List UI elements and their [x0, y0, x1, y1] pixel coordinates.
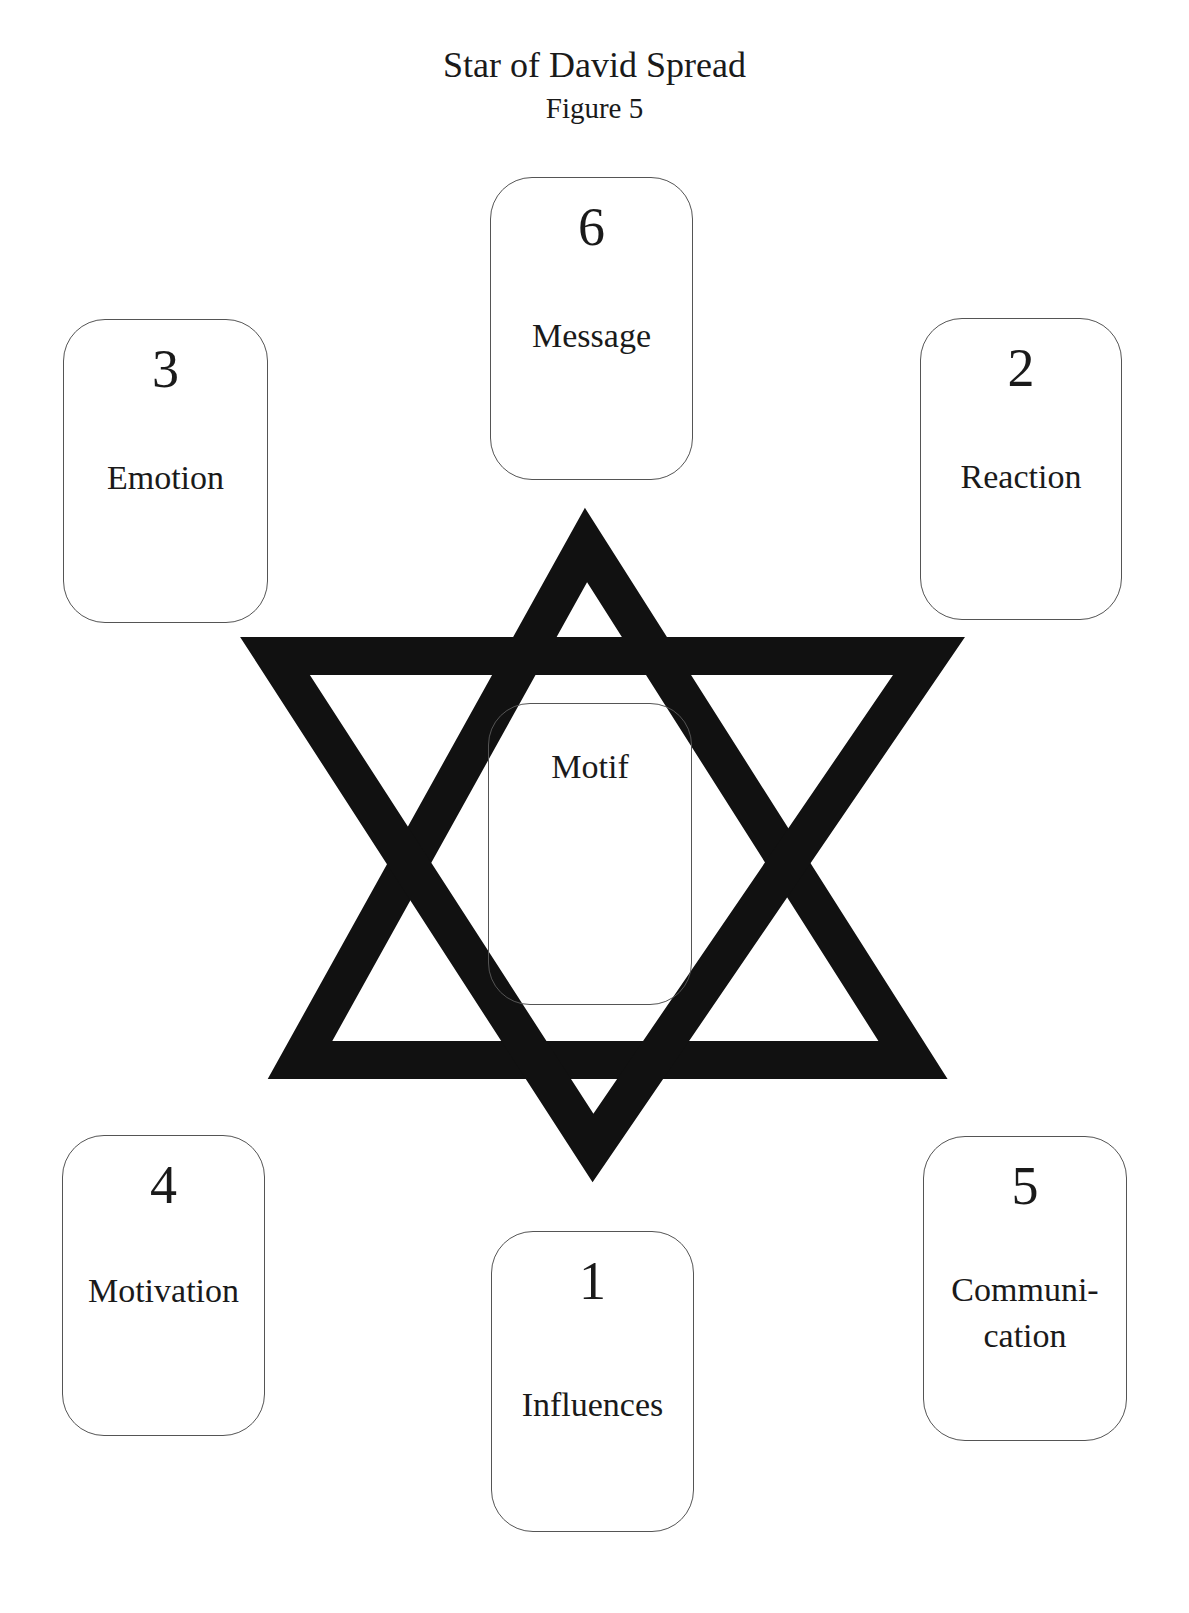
card-position-6: 6 Message: [490, 177, 693, 480]
card-number: 4: [63, 1158, 264, 1212]
card-number: 1: [492, 1254, 693, 1308]
card-number: 5: [924, 1159, 1126, 1213]
card-label: Influences: [492, 1382, 693, 1428]
card-label: Emotion: [64, 455, 267, 501]
card-label: Motivation: [63, 1268, 264, 1314]
card-label-line1: Communi-: [924, 1267, 1126, 1313]
card-number: 2: [921, 341, 1121, 395]
card-label-line2: cation: [924, 1313, 1126, 1359]
card-position-1: 1 Influences: [491, 1231, 694, 1532]
card-position-2: 2 Reaction: [920, 318, 1122, 620]
card-center-motif: Motif: [488, 703, 692, 1005]
card-position-5: 5 Communi- cation: [923, 1136, 1127, 1441]
card-number: 3: [64, 342, 267, 396]
card-position-3: 3 Emotion: [63, 319, 268, 623]
card-label: Reaction: [921, 454, 1121, 500]
card-number: 6: [491, 200, 692, 254]
card-position-4: 4 Motivation: [62, 1135, 265, 1436]
card-label: Motif: [489, 744, 691, 790]
card-label: Message: [491, 313, 692, 359]
